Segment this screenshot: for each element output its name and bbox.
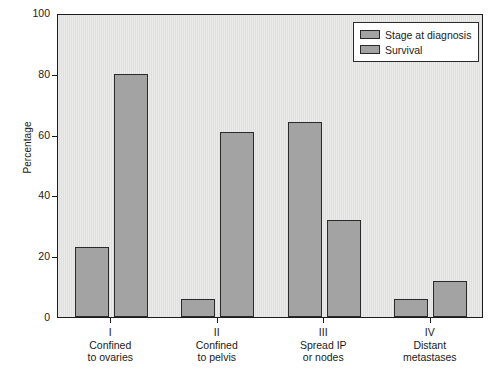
legend-swatch-icon [360,30,380,39]
x-axis-category-roman: III [263,326,383,339]
bar [220,132,254,317]
x-axis-category-label: IIISpread IPor nodes [263,326,383,364]
bar [114,74,148,317]
x-axis-tick-mark [430,318,431,323]
legend-item: Stage at diagnosis [360,28,471,41]
bar-chart-figure: Percentage 020406080100 IConfinedto ovar… [0,0,494,370]
y-axis-tick-label: 0 [24,311,50,323]
legend: Stage at diagnosis Survival [353,22,479,62]
x-axis-category-sublabel: metastases [370,351,490,364]
y-axis-tick-label: 100 [24,7,50,19]
y-axis-tick-label: 40 [24,189,50,201]
x-axis-category-label: IIConfinedto pelvis [157,326,277,364]
bar [327,220,361,317]
x-axis-category-label: IConfinedto ovaries [50,326,170,364]
x-axis-category-sublabel: or nodes [263,351,383,364]
bar [75,247,109,317]
legend-item-label: Survival [385,44,422,56]
x-axis-category-roman: II [157,326,277,339]
x-axis-category-sublabel: to pelvis [157,351,277,364]
x-axis-tick-mark [110,318,111,323]
bar [181,299,215,317]
bar [288,122,322,317]
x-axis-category-sublabel: Confined [50,339,170,352]
x-axis-tick-mark [217,318,218,323]
x-axis-category-sublabel: Confined [157,339,277,352]
y-axis-tick-label: 60 [24,129,50,141]
x-axis-category-label: IVDistantmetastases [370,326,490,364]
x-axis-category-sublabel: Spread IP [263,339,383,352]
x-axis-category-sublabel: Distant [370,339,490,352]
x-axis-category-sublabel: to ovaries [50,351,170,364]
legend-swatch-icon [360,45,380,54]
legend-item: Survival [360,43,471,56]
x-axis-category-roman: I [50,326,170,339]
y-axis-tick-label: 80 [24,68,50,80]
x-axis-category-roman: IV [370,326,490,339]
bar [394,299,428,317]
y-axis-tick-label: 20 [24,250,50,262]
legend-item-label: Stage at diagnosis [385,29,471,41]
x-axis-tick-mark [323,318,324,323]
bar [433,281,467,317]
y-axis-tick-labels: 020406080100 [20,0,50,370]
